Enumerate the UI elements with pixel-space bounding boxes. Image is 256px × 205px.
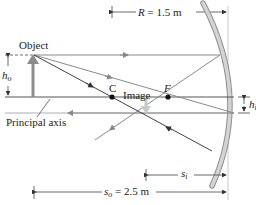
object-arrow bbox=[27, 54, 39, 97]
focal-point bbox=[165, 94, 170, 99]
image-label: Image bbox=[123, 90, 150, 101]
center-label: C bbox=[109, 83, 116, 94]
radius-label: R = 1.5 m bbox=[138, 7, 182, 18]
center-of-curvature-point bbox=[109, 94, 114, 99]
mirror-ray-diagram bbox=[0, 0, 256, 205]
radius-dimension bbox=[112, 6, 228, 200]
rays bbox=[34, 55, 234, 151]
object-height-label: ho bbox=[2, 70, 12, 83]
image-distance-label: si bbox=[181, 168, 188, 181]
object-label: Object bbox=[19, 40, 48, 51]
object-distance-label: so = 2.5 m bbox=[104, 186, 149, 199]
principal-axis-label: Principal axis bbox=[6, 117, 66, 128]
focal-label: F bbox=[164, 83, 171, 94]
image-height-label: hi bbox=[249, 99, 256, 112]
